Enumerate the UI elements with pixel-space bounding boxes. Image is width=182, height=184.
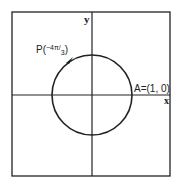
x-axis-label: x xyxy=(164,95,169,106)
unit-circle-diagram: y x A=(1, 0) P(−4π/3) xyxy=(0,0,182,184)
svg-text:P(−4π/3): P(−4π/3) xyxy=(36,44,68,56)
point-a-label: A=(1, 0) xyxy=(134,83,170,94)
point-p-label: P(−4π/3) xyxy=(36,44,68,56)
y-axis-label: y xyxy=(84,13,90,25)
frame xyxy=(12,12,170,176)
